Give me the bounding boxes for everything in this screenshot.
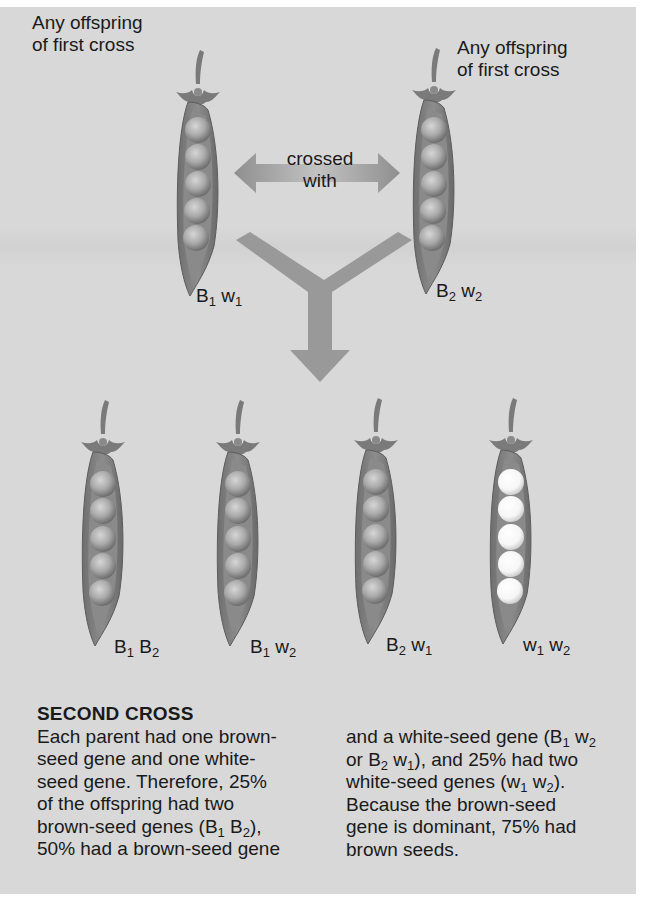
text-line: brown-seed genes (B1 B2), bbox=[37, 816, 280, 839]
parent-left-genotype: B1 w1 bbox=[196, 285, 242, 307]
parent-pod-left bbox=[176, 50, 220, 296]
merge-arrow-icon bbox=[236, 232, 412, 382]
offspring-3-genotype: B2 w1 bbox=[386, 634, 432, 656]
offspring-4-genotype: w1 w2 bbox=[523, 634, 570, 656]
parent-right-genotype: B2 w2 bbox=[436, 280, 482, 302]
offspring-2-genotype: B1 w2 bbox=[250, 636, 296, 658]
explanation-heading: SECOND CROSS bbox=[37, 703, 280, 726]
parent-pod-right bbox=[412, 48, 456, 294]
offspring-pod-2 bbox=[216, 400, 260, 646]
parent-right-caption: Any offspring of first cross bbox=[457, 37, 568, 81]
explanation-col-2: and a white-seed gene (B1 w2 or B2 w1), … bbox=[346, 726, 596, 861]
text-line: and a white-seed gene (B1 w2 bbox=[346, 726, 596, 749]
offspring-pod-3 bbox=[354, 398, 398, 644]
offspring-pod-4 bbox=[489, 398, 533, 644]
crossed-with-label: crossed with bbox=[262, 148, 378, 192]
seeds bbox=[183, 117, 211, 251]
explanation-col-1: SECOND CROSS Each parent had one brown- … bbox=[37, 703, 280, 861]
offspring-pod-1 bbox=[81, 400, 125, 646]
text-line: or B2 w1), and 25% had two bbox=[346, 749, 596, 772]
text-line: white-seed genes (w1 w2). bbox=[346, 771, 596, 794]
seeds bbox=[419, 117, 447, 251]
offspring-1-genotype: B1 B2 bbox=[114, 636, 159, 658]
parent-left-caption: Any offspring of first cross bbox=[32, 12, 143, 56]
